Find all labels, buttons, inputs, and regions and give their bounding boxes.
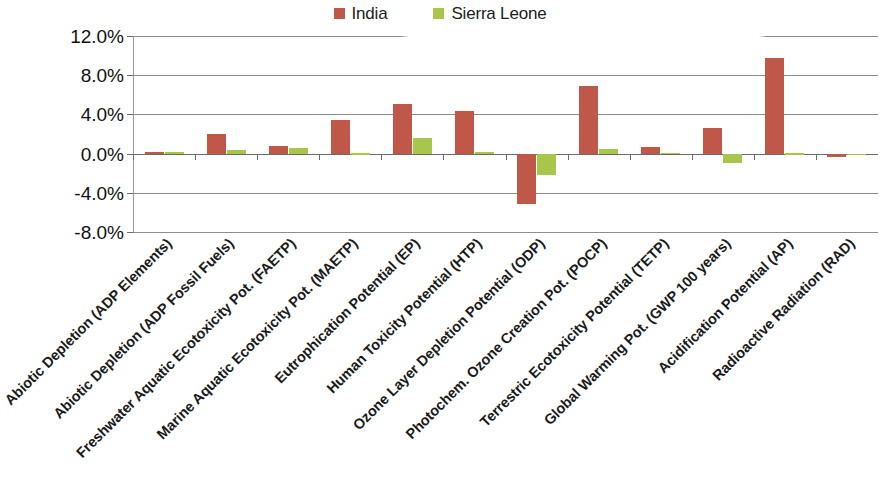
bar-sierra-leone [227,150,246,154]
chart-legend: India Sierra Leone [0,2,880,24]
y-axis-tick-label: 4.0% [81,105,124,124]
x-axis-category-labels: Abiotic Depletion (ADP Elements)Abiotic … [0,232,880,500]
bar-india [145,152,164,154]
bar-sierra-leone [661,153,680,155]
bar-india [827,154,846,157]
y-axis-tick-label: 0.0% [81,144,124,163]
legend-label-india: India [352,5,388,22]
legend-swatch-india [334,8,345,19]
legend-entry-india: India [334,5,388,22]
legend-swatch-sierra-leone [433,8,444,19]
y-axis-tick [127,36,133,37]
bar-sierra-leone [599,149,618,154]
x-axis-tick [195,154,196,160]
legend-entry-sierra-leone: Sierra Leone [433,5,546,22]
y-axis-tick-label: 8.0% [81,66,124,85]
bar-sierra-leone [413,138,432,154]
bar-sierra-leone [351,153,370,155]
bar-sierra-leone [785,153,804,155]
bar-sierra-leone [847,154,866,155]
legend-label-sierra-leone: Sierra Leone [451,5,546,22]
y-axis-tick-label: -4.0% [74,183,124,202]
y-axis-line [133,36,134,232]
x-axis-tick [133,154,134,160]
bar-sierra-leone [289,148,308,154]
bar-sierra-leone [475,152,494,154]
y-axis-tick [127,75,133,76]
x-axis-category-label-text: Freshwater Aquatic Ecotoxicity Pot. (FAE… [74,236,299,461]
bar-sierra-leone [165,152,184,153]
y-axis-tick [127,114,133,115]
y-axis-tick [127,193,133,194]
y-axis-tick-label: 12.0% [70,27,124,46]
bar-india [207,134,226,154]
